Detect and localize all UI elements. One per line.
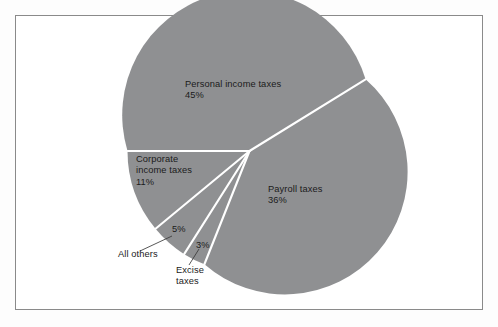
slice-label-payroll-taxes: Payroll taxes36% — [268, 184, 323, 207]
slice-label-personal-income-taxes-name: Personal income taxes — [185, 79, 281, 89]
slice-label-excise-taxes-percent: 3% — [196, 240, 209, 251]
slice-label-corporate-income-taxes-name-line2: income taxes — [136, 165, 192, 175]
slice-label-excise-taxes-name-line1: Excise — [176, 265, 204, 275]
slice-label-payroll-taxes-name: Payroll taxes — [268, 184, 323, 194]
slice-label-excise-taxes-name: Excisetaxes — [176, 265, 204, 288]
pie-slices — [122, 0, 407, 294]
slice-label-corporate-income-taxes-percent: 11% — [136, 177, 154, 187]
slice-label-excise-taxes-name-line2: taxes — [176, 276, 199, 286]
slice-label-all-others-percent: 5% — [172, 224, 185, 235]
pie-chart-figure: Personal income taxes45% Payroll taxes36… — [0, 0, 498, 327]
slice-label-all-others-name: All others — [118, 249, 158, 260]
slice-label-personal-income-taxes-percent: 45% — [185, 90, 204, 100]
slice-label-corporate-income-taxes: Corporateincome taxes11% — [136, 154, 192, 188]
slice-label-corporate-income-taxes-name-line1: Corporate — [136, 154, 178, 164]
slice-label-personal-income-taxes: Personal income taxes45% — [185, 79, 281, 102]
slice-label-payroll-taxes-percent: 36% — [268, 195, 287, 205]
pie-chart-canvas — [0, 0, 498, 327]
